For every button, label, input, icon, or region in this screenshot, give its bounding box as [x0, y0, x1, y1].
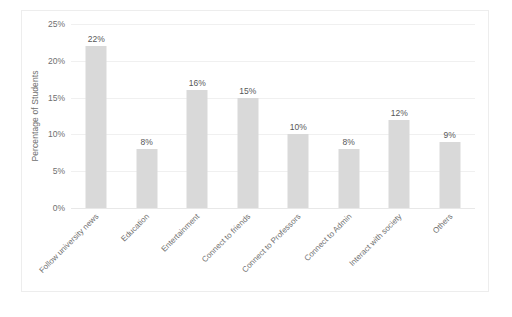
- bar-group: 22%: [71, 24, 122, 208]
- bar-group: 12%: [374, 24, 425, 208]
- bar[interactable]: [389, 120, 410, 208]
- x-axis-tick-label: Connect to Professors: [240, 212, 302, 274]
- bar[interactable]: [86, 46, 107, 208]
- bar-group: 8%: [324, 24, 375, 208]
- bar-group: 8%: [122, 24, 173, 208]
- bar-value-label: 22%: [88, 34, 105, 44]
- x-axis-tick-label: Interact with society: [348, 212, 404, 268]
- bar[interactable]: [237, 98, 258, 208]
- x-axis-tick-label: Follow university news: [38, 212, 101, 275]
- y-axis-tick-label: 25%: [48, 19, 65, 29]
- x-axis-tick-label: Connect to friends: [200, 212, 252, 264]
- bar-group: 16%: [172, 24, 223, 208]
- x-axis-tick-label: Connect to Admin: [302, 212, 353, 263]
- y-axis-tick-label: 15%: [48, 93, 65, 103]
- y-axis-tick-label: 5%: [53, 166, 65, 176]
- bar[interactable]: [338, 149, 359, 208]
- chart-figure: 0%5%10%15%20%25% 22%8%16%15%10%8%12%9% F…: [21, 10, 489, 292]
- bar[interactable]: [136, 149, 157, 208]
- bar-value-label: 16%: [189, 78, 206, 88]
- bar[interactable]: [187, 90, 208, 208]
- gridline: [71, 208, 475, 209]
- bar-value-label: 12%: [391, 108, 408, 118]
- bar-value-label: 15%: [239, 86, 256, 96]
- bar-group: 15%: [223, 24, 274, 208]
- bar-group: 10%: [273, 24, 324, 208]
- bar-group: 9%: [425, 24, 476, 208]
- x-axis-tick-label: Entertainment: [160, 212, 202, 254]
- bar-value-label: 8%: [141, 137, 153, 147]
- x-axis-tick-label: Others: [431, 212, 454, 235]
- y-axis-title: Percentage of Students: [30, 70, 40, 161]
- bar-value-label: 9%: [444, 130, 456, 140]
- y-axis-tick-label: 10%: [48, 129, 65, 139]
- x-axis-tick-label: Education: [120, 212, 152, 244]
- plot-area: 0%5%10%15%20%25% 22%8%16%15%10%8%12%9% F…: [71, 24, 475, 208]
- y-axis-tick-label: 0%: [53, 203, 65, 213]
- y-axis-tick-label: 20%: [48, 56, 65, 66]
- bar-value-label: 10%: [290, 122, 307, 132]
- bar[interactable]: [439, 142, 460, 208]
- bar-value-label: 8%: [343, 137, 355, 147]
- bar[interactable]: [288, 134, 309, 208]
